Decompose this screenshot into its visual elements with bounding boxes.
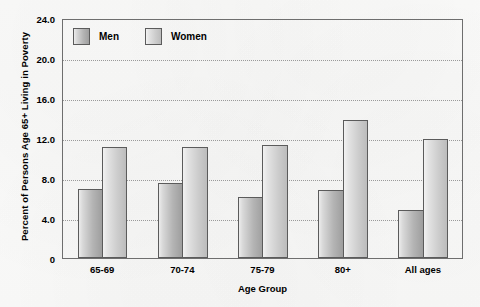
- y-axis-tick-label: 4.0: [42, 214, 55, 225]
- bar-men[interactable]: [238, 197, 264, 258]
- chart-legend: MenWomen: [73, 28, 233, 45]
- x-axis-title: Age Group: [62, 283, 463, 294]
- bar-women[interactable]: [262, 145, 288, 258]
- bar-men[interactable]: [158, 183, 184, 258]
- x-axis-tick-labels: 65-6970-7475-7980+All ages: [0, 264, 480, 280]
- legend-swatch-icon: [145, 28, 162, 45]
- legend-swatch-icon: [73, 28, 90, 45]
- bar-women[interactable]: [423, 139, 449, 258]
- bar-group: [238, 20, 289, 258]
- y-axis-tick-label: 8.0: [42, 174, 55, 185]
- bar-group: [398, 20, 449, 258]
- y-axis-tick-label: 20.0: [37, 54, 56, 65]
- legend-label: Women: [171, 31, 207, 42]
- bar-group: [158, 20, 209, 258]
- bar-women[interactable]: [102, 147, 128, 258]
- poverty-bar-chart: Percent of Persons Age 65+ Living in Pov…: [0, 0, 480, 307]
- bar-group: [78, 20, 129, 258]
- y-axis-tick-label: 24.0: [37, 14, 56, 25]
- legend-item-men[interactable]: Men: [73, 28, 119, 45]
- x-axis-tick-label: 65-69: [90, 264, 114, 275]
- bar-women[interactable]: [182, 147, 208, 258]
- x-axis-tick-label: 80+: [335, 264, 351, 275]
- x-axis-tick-label: All ages: [405, 264, 441, 275]
- y-axis-tick-label: 12.0: [37, 134, 56, 145]
- plot-area: [62, 19, 463, 259]
- legend-label: Men: [99, 31, 119, 42]
- bar-women[interactable]: [343, 120, 369, 258]
- legend-item-women[interactable]: Women: [145, 28, 207, 45]
- x-axis-tick-label: 75-79: [250, 264, 274, 275]
- bar-group: [318, 20, 369, 258]
- bar-men[interactable]: [318, 190, 344, 258]
- y-axis-tick-labels: 04.08.012.016.020.024.0: [0, 0, 62, 307]
- y-axis-tick-label: 16.0: [37, 94, 56, 105]
- y-axis-tick-label: 0: [50, 254, 55, 265]
- bar-men[interactable]: [398, 210, 424, 258]
- bars-layer: [63, 20, 462, 258]
- bar-men[interactable]: [78, 189, 104, 258]
- x-axis-tick-label: 70-74: [170, 264, 194, 275]
